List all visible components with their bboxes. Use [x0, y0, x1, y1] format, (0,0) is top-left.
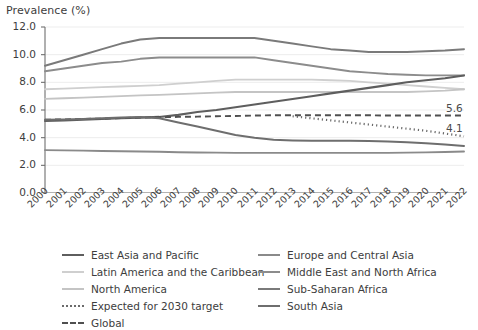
series-line-latin-america-and-the-caribbean — [45, 80, 464, 90]
legend-item[interactable]: South Asia — [258, 298, 437, 314]
y-tick-label: 4.0 — [4, 131, 36, 143]
legend-swatch-icon — [258, 271, 280, 273]
prevalence-line-chart: Prevalence (%) 0.02.04.06.08.010.012.0 2… — [0, 0, 478, 330]
value-annotation: 5.6 — [446, 102, 463, 114]
series-line-north-america — [45, 89, 464, 99]
plot-area — [0, 18, 478, 193]
legend-swatch-icon — [62, 271, 84, 273]
value-annotation: 4.1 — [446, 122, 463, 134]
legend-swatch-icon — [258, 305, 280, 307]
legend-swatch-icon — [258, 254, 280, 256]
y-tick-label: 8.0 — [4, 75, 36, 87]
legend-item-label: Expected for 2030 target — [91, 300, 223, 312]
legend-item[interactable]: East Asia and Pacific — [62, 247, 265, 263]
legend-item[interactable]: North America — [62, 281, 265, 297]
legend-item[interactable]: Europe and Central Asia — [258, 247, 437, 263]
legend-item-label: Europe and Central Asia — [287, 249, 414, 261]
plot-svg — [0, 18, 478, 193]
legend-swatch-icon — [62, 322, 84, 324]
legend-item[interactable]: Latin America and the Caribbean — [62, 264, 265, 280]
legend-item[interactable]: Sub-Saharan Africa — [258, 281, 437, 297]
legend-item-label: North America — [91, 283, 167, 295]
x-axis-tick-labels: 2000200120022003200420052006200720082009… — [0, 196, 478, 244]
legend-column-right: Europe and Central AsiaMiddle East and N… — [258, 247, 437, 315]
y-tick-label: 12.0 — [4, 20, 36, 32]
legend-item-label: Latin America and the Caribbean — [91, 266, 265, 278]
y-tick-label: 10.0 — [4, 48, 36, 60]
legend-item[interactable]: Middle East and North Africa — [258, 264, 437, 280]
series-line-europe-and-central-asia — [45, 150, 464, 153]
legend-item-label: Middle East and North Africa — [287, 266, 437, 278]
y-tick-label: 6.0 — [4, 103, 36, 115]
legend-item-label: Sub-Saharan Africa — [287, 283, 388, 295]
series-line-south-asia — [45, 117, 464, 146]
series-line-sub-saharan-africa — [45, 38, 464, 66]
legend-item-label: South Asia — [287, 300, 343, 312]
legend-item-label: East Asia and Pacific — [91, 249, 199, 261]
legend-swatch-icon — [62, 305, 84, 307]
legend-column-left: East Asia and PacificLatin America and t… — [62, 247, 265, 330]
legend-item[interactable]: Expected for 2030 target — [62, 298, 265, 314]
series-line-expected-for-2030-target — [293, 116, 464, 136]
series-line-middle-east-and-north-africa — [45, 57, 464, 75]
legend-item-label: Global — [91, 317, 125, 329]
legend-item[interactable]: Global — [62, 315, 265, 330]
legend-swatch-icon — [62, 288, 84, 290]
legend-swatch-icon — [258, 288, 280, 290]
y-tick-label: 2.0 — [4, 158, 36, 170]
y-axis-title: Prevalence (%) — [6, 4, 90, 17]
chart-legend: East Asia and PacificLatin America and t… — [0, 247, 478, 330]
legend-swatch-icon — [62, 254, 84, 256]
